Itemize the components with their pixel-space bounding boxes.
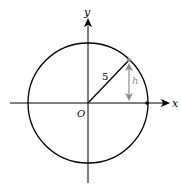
point-on-circle <box>127 58 131 62</box>
radius-line <box>88 60 129 103</box>
x-axis-label: x <box>172 97 179 110</box>
y-axis-arrow-icon <box>84 18 92 27</box>
origin-label: O <box>77 108 85 119</box>
x-intercept-point <box>145 101 149 105</box>
radius-label: 5 <box>102 71 108 82</box>
height-label: h <box>132 75 138 86</box>
y-axis-label: y <box>83 6 91 19</box>
circle-diagram: y x O 5 h <box>0 0 181 190</box>
